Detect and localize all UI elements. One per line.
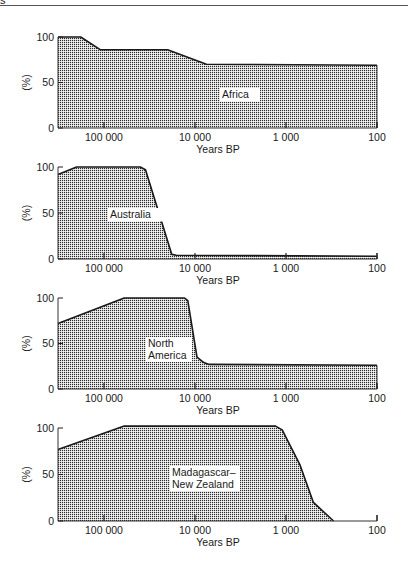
x-tick-label: 100 — [368, 131, 386, 143]
y-axis-title: (%) — [20, 335, 32, 351]
x-axis-title: Years BP — [196, 274, 239, 286]
y-axis-title: (%) — [20, 74, 32, 90]
x-tick-label: 1 000 — [273, 262, 299, 274]
region-label: America — [148, 349, 187, 361]
x-tick-label: 100 000 — [85, 524, 123, 536]
area-fill — [58, 298, 377, 389]
x-tick-label: 1 000 — [273, 524, 299, 536]
x-tick-label: 10 000 — [179, 131, 211, 143]
y-tick-label: 50 — [42, 207, 54, 219]
y-tick-label: 50 — [42, 337, 54, 349]
region-label: Africa — [222, 88, 249, 100]
y-axis-title: (%) — [20, 466, 32, 482]
y-axis-title: (%) — [20, 205, 32, 221]
y-tick-label: 0 — [48, 122, 54, 134]
y-tick-label: 100 — [36, 422, 54, 434]
x-tick-label: 100 — [368, 524, 386, 536]
x-tick-label: 10 000 — [179, 524, 211, 536]
region-label: Madagascar– — [172, 466, 236, 478]
region-label: New Zealand — [172, 478, 234, 490]
y-tick-label: 0 — [48, 515, 54, 527]
chart-panel-1: 050100100 00010 0001 000100Years BP(%)Af… — [20, 31, 386, 156]
y-tick-label: 100 — [36, 292, 54, 304]
x-tick-label: 100 000 — [85, 131, 123, 143]
x-tick-label: 10 000 — [179, 262, 211, 274]
area-fill — [58, 37, 377, 128]
x-tick-label: 100 000 — [85, 392, 123, 404]
x-tick-label: 1 000 — [273, 392, 299, 404]
region-label: Australia — [110, 208, 151, 220]
chart-panel-3: 050100100 00010 0001 000100Years BP(%)No… — [20, 292, 386, 417]
y-tick-label: 50 — [42, 76, 54, 88]
y-tick-label: 50 — [42, 468, 54, 480]
x-tick-label: 100 — [368, 392, 386, 404]
y-tick-label: 100 — [36, 161, 54, 173]
y-tick-label: 0 — [48, 253, 54, 265]
chart-panel-2: 050100100 00010 0001 000100Years BP(%)Au… — [20, 161, 386, 287]
x-axis-title: Years BP — [196, 143, 239, 155]
x-tick-label: 1 000 — [273, 131, 299, 143]
area-fill — [58, 167, 377, 259]
x-tick-label: 10 000 — [179, 392, 211, 404]
x-axis-title: Years BP — [196, 404, 239, 416]
region-label: North — [148, 337, 174, 349]
y-tick-label: 100 — [36, 31, 54, 43]
x-tick-label: 100 — [368, 262, 386, 274]
chart-panel-4: 050100100 00010 0001 000100Years BP(%)Ma… — [20, 422, 386, 549]
y-tick-label: 0 — [48, 383, 54, 395]
extinction-charts: 050100100 00010 0001 000100Years BP(%)Af… — [0, 0, 408, 569]
x-tick-label: 100 000 — [85, 262, 123, 274]
x-axis-title: Years BP — [196, 536, 239, 548]
